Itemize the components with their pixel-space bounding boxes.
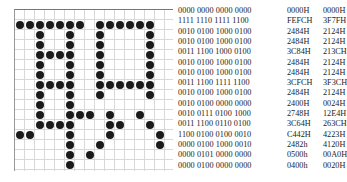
- pixel-dot: [106, 81, 114, 89]
- pixel-dot: [96, 61, 104, 69]
- pixel-dot: [66, 71, 74, 79]
- pixel-dot: [56, 51, 64, 59]
- hex-value-1: 3CFCH: [287, 78, 312, 87]
- hex-value-2: 213CH: [323, 47, 347, 56]
- pixel-dot: [76, 111, 84, 119]
- hex-value-2: 4223H: [323, 130, 345, 139]
- pixel-dot: [136, 21, 144, 29]
- pixel-dot: [66, 51, 74, 59]
- pixel-dot: [106, 21, 114, 29]
- hex-value-1: FEFCH: [287, 16, 312, 25]
- hex-value-1: 0400h: [287, 161, 307, 170]
- binary-value: 0011 1100 0110 0100: [178, 119, 278, 128]
- hex-value-1: 2484H: [287, 37, 309, 46]
- pixel-dot: [136, 81, 144, 89]
- pixel-dot: [66, 151, 74, 159]
- pixel-dot: [66, 111, 74, 119]
- binary-value: 0010 0111 0100 1000: [178, 109, 278, 118]
- hex-value-1: 2748H: [287, 109, 309, 118]
- pixel-dot: [66, 41, 74, 49]
- hex-value-2: 12E4H: [323, 109, 346, 118]
- pixel-dot: [66, 81, 74, 89]
- hex-value-2: 2124H: [323, 37, 345, 46]
- binary-value: 0011 1100 1111 1100: [178, 78, 278, 87]
- pixel-dot: [96, 21, 104, 29]
- pixel-dot: [106, 111, 114, 119]
- pixel-dot: [36, 101, 44, 109]
- pixel-dot: [106, 121, 114, 129]
- binary-value: 0010 0100 1000 0100: [178, 68, 278, 77]
- hex-value-1: 0000H: [287, 6, 309, 15]
- hex-value-1: 2484H: [287, 88, 309, 97]
- pixel-dot: [96, 71, 104, 79]
- hex-value-1: 2400H: [287, 99, 309, 108]
- hex-value-1: 2484H: [287, 68, 309, 77]
- pixel-dot: [146, 121, 154, 129]
- pixel-dot: [116, 121, 124, 129]
- pixel-dot: [146, 41, 154, 49]
- hex-value-1: 2482h: [287, 140, 307, 149]
- hex-value-2: 0024H: [323, 99, 345, 108]
- binary-value: 0010 0100 1000 0100: [178, 88, 278, 97]
- pixel-dot: [146, 81, 154, 89]
- hex-value-2: 0020H: [323, 161, 345, 170]
- pixel-dot: [36, 81, 44, 89]
- pixel-dot: [46, 51, 54, 59]
- pixel-dot: [76, 21, 84, 29]
- binary-value: 1111 1110 1111 1100: [178, 16, 278, 25]
- pixel-dot: [146, 51, 154, 59]
- pixel-dot: [56, 121, 64, 129]
- pixel-dot: [86, 111, 94, 119]
- pixel-dot: [156, 141, 164, 149]
- pixel-dot: [96, 41, 104, 49]
- pixel-dot: [36, 31, 44, 39]
- pixel-dot: [66, 161, 74, 169]
- pixel-dot: [56, 81, 64, 89]
- pixel-dot: [116, 81, 124, 89]
- pixel-dot: [46, 81, 54, 89]
- pixel-dot: [36, 51, 44, 59]
- pixel-dot: [36, 61, 44, 69]
- pixel-dot: [26, 21, 34, 29]
- pixel-dot: [66, 101, 74, 109]
- pixel-dot: [36, 111, 44, 119]
- pixel-dot: [46, 121, 54, 129]
- pixel-dot: [36, 121, 44, 129]
- pixel-dot: [26, 131, 34, 139]
- binary-value: 0010 0100 1000 0100: [178, 27, 278, 36]
- pixel-dot: [146, 91, 154, 99]
- pixel-dot: [96, 141, 104, 149]
- hex-value-2: 2124H: [323, 68, 345, 77]
- pixel-dot: [146, 71, 154, 79]
- binary-value: 0000 0100 0000 0000: [178, 161, 278, 170]
- pixel-dot: [36, 21, 44, 29]
- pixel-dot: [46, 21, 54, 29]
- hex-value-1: 2484H: [287, 58, 309, 67]
- pixel-dot: [136, 111, 144, 119]
- pixel-dot: [96, 51, 104, 59]
- pixel-dot: [36, 41, 44, 49]
- hex-value-2: 2124H: [323, 58, 345, 67]
- pixel-dot: [56, 21, 64, 29]
- dot-matrix-grid: [14, 9, 173, 171]
- pixel-dot: [126, 81, 134, 89]
- binary-value: 1100 0100 0100 0010: [178, 130, 278, 139]
- pixel-dot: [146, 21, 154, 29]
- pixel-dot: [156, 131, 164, 139]
- hex-value-2: 0000H: [323, 6, 345, 15]
- pixel-dot: [96, 81, 104, 89]
- binary-value: 0010 0100 1000 0100: [178, 37, 278, 46]
- hex-value-1: 0500h: [287, 150, 307, 159]
- pixel-dot: [106, 131, 114, 139]
- hex-value-1: 3C64H: [287, 119, 311, 128]
- hex-value-1: C442H: [287, 130, 311, 139]
- pixel-dot: [66, 91, 74, 99]
- pixel-dot: [66, 61, 74, 69]
- binary-value: 0000 0101 0000 0000: [178, 150, 278, 159]
- pixel-dot: [86, 151, 94, 159]
- binary-value: 0010 0100 0000 0000: [178, 99, 278, 108]
- pixel-dot: [16, 21, 24, 29]
- hex-value-2: 4120H: [323, 140, 345, 149]
- pixel-dot: [116, 21, 124, 29]
- binary-value: 0000 0100 1000 0010: [178, 140, 278, 149]
